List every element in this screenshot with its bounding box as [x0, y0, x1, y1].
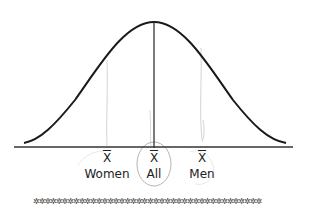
women-mean-sketch-line	[107, 60, 108, 146]
bell-curve-diagram	[0, 0, 309, 218]
all-mean-symbol: X	[144, 151, 164, 165]
all-mean-sketch-line	[150, 110, 151, 146]
men-mean-sketch-line	[201, 48, 204, 142]
women-mean-symbol: X	[97, 151, 117, 165]
normal-curve	[24, 22, 286, 143]
men-mean-symbol: X	[192, 151, 212, 165]
decorative-border: ✲✲✲✲✲✲✲✲✲✲✲✲✲✲✲✲✲✲✲✲✲✲✲✲✲✲✲✲✲✲✲✲✲✲✲✲✲✲✲✲	[33, 197, 273, 206]
men-label: Men	[172, 167, 232, 181]
